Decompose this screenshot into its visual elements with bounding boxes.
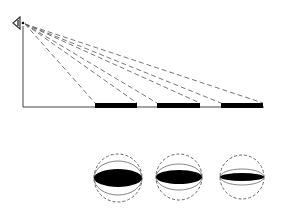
- ground-bars: [95, 103, 263, 108]
- sight-line: [25, 24, 200, 103]
- sight-line: [25, 24, 263, 103]
- projected-view: [156, 154, 202, 200]
- ground-bar: [95, 103, 137, 108]
- perspective-diagram: [0, 0, 282, 212]
- sight-lines: [25, 24, 263, 103]
- ground-bar: [157, 103, 200, 108]
- projected-views: [94, 154, 264, 202]
- sight-line: [25, 24, 137, 103]
- projected-view: [94, 154, 142, 202]
- ground-bar: [221, 103, 263, 108]
- projected-view: [220, 155, 264, 199]
- sight-line: [25, 24, 221, 103]
- sight-line: [25, 24, 157, 103]
